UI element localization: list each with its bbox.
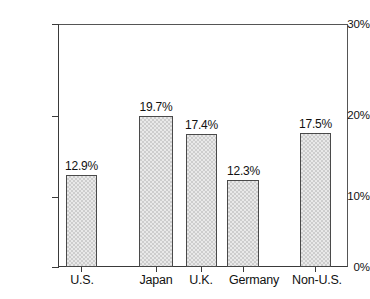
bar-japan — [139, 116, 173, 267]
bar-germany — [227, 180, 259, 267]
x-axis-tick-mark-germany — [243, 267, 244, 272]
x-axis-label-nonus: Non-U.S. — [276, 274, 358, 287]
y-axis-tick-mark-30 — [52, 24, 59, 25]
bar-value-nonus: 17.5% — [283, 118, 348, 130]
x-axis-tick-mark-uk — [201, 267, 202, 272]
bar-nonus — [300, 133, 331, 267]
y-axis-tick-mark-10 — [52, 197, 59, 198]
bar-value-japan: 19.7% — [123, 101, 189, 113]
bar-value-uk: 17.4% — [169, 119, 234, 131]
x-axis-label-us: U.S. — [51, 274, 113, 287]
x-axis-tick-mark-us — [81, 267, 82, 272]
bar-uk — [186, 134, 217, 267]
y-axis-tick-mark-0 — [52, 267, 59, 268]
bar-chart: 30% 20% 10% 0% 12.9% 19.7% 17.4% 12.3% 1… — [0, 0, 370, 299]
y-axis-tick-mark-20 — [52, 116, 59, 117]
y-axis-tick-label-30: 30% — [322, 19, 370, 31]
bar-us — [66, 175, 97, 267]
x-axis-tick-mark-japan — [156, 267, 157, 272]
x-axis-tick-mark-nonus — [315, 267, 316, 272]
bar-value-us: 12.9% — [49, 160, 114, 172]
bar-value-germany: 12.3% — [211, 165, 276, 177]
